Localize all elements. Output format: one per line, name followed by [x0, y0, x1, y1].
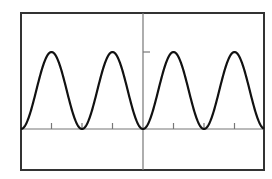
function-plot [0, 0, 272, 179]
